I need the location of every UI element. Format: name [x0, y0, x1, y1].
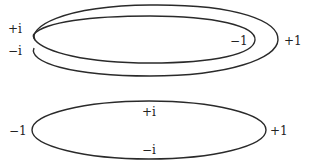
bottom-label-plus-one: +1	[270, 125, 288, 137]
bottom-label-minus-i: −i	[142, 144, 156, 156]
top-label-plus-i: +i	[8, 23, 22, 35]
diagram-curves	[0, 0, 311, 166]
bottom-label-minus-one: −1	[9, 125, 27, 137]
diagram: +i −i −1 +1 −1 +1 +i −i	[0, 0, 311, 166]
top-label-minus-i: −i	[8, 45, 22, 57]
top-label-plus-one: +1	[284, 35, 302, 47]
top-label-minus-one: −1	[230, 35, 248, 47]
top-inner-loop	[33, 16, 255, 63]
bottom-label-plus-i: +i	[142, 106, 156, 118]
